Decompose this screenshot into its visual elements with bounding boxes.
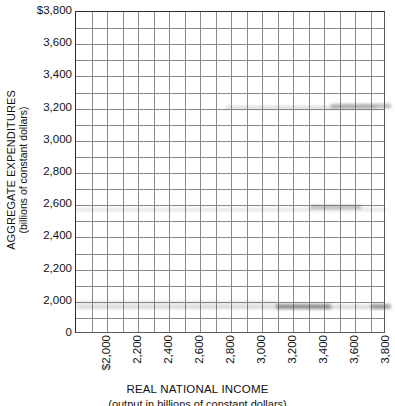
y-tick-label: 2,400 (16, 230, 72, 242)
x-tick-label: 3,800 (378, 335, 392, 381)
y-tick-label: 3,200 (16, 102, 72, 114)
x-tick-label-text: $2,000 (100, 335, 112, 370)
gridline-horizontal (76, 28, 384, 29)
y-tick-label: 3,000 (16, 134, 72, 146)
gridline-horizontal (76, 270, 384, 271)
x-axis-title: REAL NATIONAL INCOME (0, 383, 395, 395)
gridline-horizontal (76, 173, 384, 174)
x-tick-label: 3,600 (347, 335, 361, 381)
gridlines (76, 12, 384, 332)
gridline-horizontal (76, 286, 384, 287)
gridline-horizontal (76, 205, 384, 206)
x-tick-label: 2,200 (130, 335, 144, 381)
x-tick-label-text: 3,000 (255, 335, 267, 364)
x-tick-label-text: 2,200 (131, 335, 143, 364)
x-axis-tick-labels: $2,0002,2002,4002,6002,8003,0003,2003,40… (0, 333, 395, 383)
x-tick-label: 2,800 (223, 335, 237, 381)
gridline-horizontal (76, 109, 384, 110)
chart-figure: AGGREGATE EXPENDITURES (billions of cons… (0, 0, 395, 406)
gridline-horizontal (76, 318, 384, 319)
plot-area (75, 11, 385, 333)
x-tick-label: 3,000 (254, 335, 268, 381)
x-tick-label-text: 2,600 (193, 335, 205, 364)
gridline-horizontal (76, 302, 384, 303)
gridline-horizontal (76, 93, 384, 94)
gridline-horizontal (76, 125, 384, 126)
y-tick-label: 2,200 (16, 263, 72, 275)
gridline-horizontal (76, 44, 384, 45)
x-tick-label-text: 3,600 (348, 335, 360, 364)
x-tick-label: 3,400 (316, 335, 330, 381)
gridline-horizontal (76, 60, 384, 61)
x-tick-label-text: 2,400 (162, 335, 174, 364)
x-tick-label-text: 3,200 (286, 335, 298, 364)
y-tick-label: 3,600 (16, 37, 72, 49)
gridline-horizontal (76, 76, 384, 77)
gridline-horizontal (76, 157, 384, 158)
x-tick-label: 3,200 (285, 335, 299, 381)
y-tick-label: 2,000 (16, 295, 72, 307)
gridline-horizontal (76, 254, 384, 255)
gridline-horizontal (76, 141, 384, 142)
y-tick-label: $3,800 (16, 5, 72, 17)
x-tick-label-text: 2,800 (224, 335, 236, 364)
x-tick-label: 2,600 (192, 335, 206, 381)
x-tick-label-text: 3,400 (317, 335, 329, 364)
x-axis-subtitle: (output in billions of constant dollars) (0, 398, 395, 406)
gridline-horizontal (76, 189, 384, 190)
y-tick-label: 3,400 (16, 69, 72, 81)
gridline-horizontal (76, 221, 384, 222)
x-tick-label: 2,400 (161, 335, 175, 381)
gridline-horizontal (76, 237, 384, 238)
y-tick-label: 2,800 (16, 166, 72, 178)
y-tick-label: 2,600 (16, 198, 72, 210)
x-tick-label-text: 3,800 (379, 335, 391, 364)
x-tick-label: $2,000 (99, 335, 113, 381)
